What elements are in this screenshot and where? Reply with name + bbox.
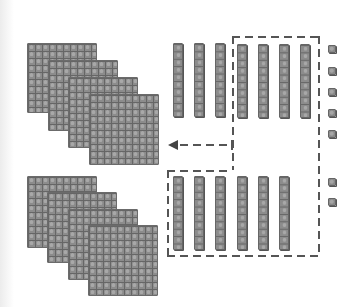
ones-unit-cube bbox=[328, 45, 336, 53]
ones-unit-cube bbox=[328, 130, 336, 138]
ones-unit-cube bbox=[328, 178, 336, 186]
tens-rod bbox=[237, 176, 247, 250]
tens-rod bbox=[215, 176, 225, 250]
tens-rod bbox=[194, 176, 204, 250]
tens-rod bbox=[279, 44, 289, 118]
dashed-box-lower-top-edge bbox=[167, 170, 230, 172]
tens-rod bbox=[194, 43, 204, 117]
dashed-box-bottom-edge bbox=[167, 255, 318, 257]
tens-rod bbox=[173, 176, 183, 250]
arrow-tail-tick bbox=[231, 140, 233, 150]
regroup-arrow-shaft bbox=[180, 144, 232, 146]
tens-rod bbox=[279, 176, 289, 250]
tens-rod bbox=[258, 44, 268, 118]
hundreds-flat bbox=[88, 225, 158, 296]
tens-rod bbox=[173, 43, 183, 117]
left-arrow-icon bbox=[168, 140, 178, 150]
tens-rod bbox=[258, 176, 268, 250]
dashed-box-lower-left-edge bbox=[167, 170, 169, 255]
ones-unit-cube bbox=[328, 198, 336, 206]
tens-rod bbox=[300, 44, 310, 118]
tens-rod bbox=[215, 43, 225, 117]
tens-rod bbox=[237, 44, 247, 118]
ones-unit-cube bbox=[328, 109, 336, 117]
dashed-box-top-edge bbox=[232, 36, 318, 38]
base-ten-blocks-diagram bbox=[0, 0, 353, 307]
ones-unit-cube bbox=[328, 67, 336, 75]
dashed-box-right-edge bbox=[318, 36, 320, 255]
hundreds-flat bbox=[89, 94, 159, 165]
ones-unit-cube bbox=[328, 88, 336, 96]
